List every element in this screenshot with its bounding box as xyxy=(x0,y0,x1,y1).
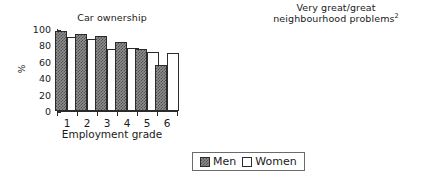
chart-title-left-line-1: Car ownership xyxy=(0,12,224,23)
x-axis-line-left xyxy=(57,111,178,112)
bar-men-grade-6 xyxy=(155,65,167,111)
plot-area-left: 020406080100123456 xyxy=(57,30,177,112)
y-tick-label: 0 xyxy=(45,106,51,117)
chart-title-right-line-2-text: neighbourhood problems xyxy=(273,13,394,24)
chart-panel-neighbourhood-problems: Very great/great neighbourhood problems2… xyxy=(224,0,448,148)
x-tick-mark xyxy=(177,112,178,116)
x-tick-mark xyxy=(137,112,138,116)
bar-women-grade-6 xyxy=(167,53,179,111)
legend-label-men: Men xyxy=(213,155,236,168)
legend-entry-men: Men xyxy=(200,155,236,168)
bar-men-grade-5 xyxy=(135,49,147,111)
legend-entry-women: Women xyxy=(242,155,296,168)
bar-men-grade-2 xyxy=(75,34,87,111)
x-tick-mark xyxy=(97,112,98,116)
x-tick-mark xyxy=(117,112,118,116)
bar-men-grade-4 xyxy=(115,42,127,111)
chart-title-footnote-marker: 2 xyxy=(395,12,399,20)
chart-title-right-line-2: neighbourhood problems2 xyxy=(224,13,448,24)
y-tick-label: 40 xyxy=(39,73,51,84)
x-axis-label-left: Employment grade xyxy=(0,128,224,140)
chart-panel-car-ownership: Car ownership % 020406080100123456 Emplo… xyxy=(0,0,224,148)
bar-men-grade-1 xyxy=(55,31,67,111)
bar-men-grade-3 xyxy=(95,36,107,111)
y-tick-label: 80 xyxy=(39,40,51,51)
x-tick-mark xyxy=(157,112,158,116)
figure-container: Car ownership % 020406080100123456 Emplo… xyxy=(0,0,448,181)
chart-title-right: Very great/great neighbourhood problems2 xyxy=(224,2,448,24)
y-tick-label: 100 xyxy=(33,24,51,35)
y-tick-mark xyxy=(57,112,61,113)
x-tick-mark xyxy=(77,112,78,116)
men-swatch-icon xyxy=(200,157,210,167)
y-axis-label-left: % xyxy=(17,65,27,74)
women-swatch-icon xyxy=(242,157,252,167)
y-tick-label: 20 xyxy=(39,90,51,101)
chart-title-right-line-1: Very great/great xyxy=(224,2,448,13)
chart-title-left: Car ownership xyxy=(0,12,224,23)
x-tick-mark xyxy=(57,112,58,116)
chart-legend: Men Women xyxy=(192,152,305,171)
legend-label-women: Women xyxy=(255,155,296,168)
y-tick-label: 60 xyxy=(39,57,51,68)
